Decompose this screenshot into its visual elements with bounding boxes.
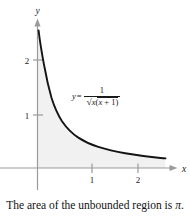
equation-annotation: y = 1 √x(x + 1): [72, 86, 120, 107]
x-axis-arrowhead: [170, 165, 178, 171]
equation-equals-sign: =: [77, 92, 82, 101]
radical-group: √x(x + 1): [86, 98, 119, 108]
denominator-plus-one: + 1: [102, 97, 115, 107]
radical-body: x(x + 1): [92, 97, 119, 107]
y-axis-arrowhead: [34, 19, 40, 27]
x-axis-label: x: [181, 164, 187, 174]
radical-overbar: [97, 97, 119, 98]
equation-fraction: 1 √x(x + 1): [84, 86, 121, 107]
figure-container: 1 2 1 2 y x y = 1 √x(x + 1) The area of …: [0, 0, 190, 224]
y-tick-label-2: 2: [25, 56, 30, 66]
equation-numerator: 1: [97, 86, 107, 96]
equation-denominator: √x(x + 1): [84, 97, 121, 108]
equation-lhs: y: [72, 92, 76, 101]
caption-period: .: [181, 199, 184, 211]
x-tick-label-2: 2: [136, 175, 141, 185]
denominator-close-paren: ): [116, 97, 119, 107]
figure-caption: The area of the unbounded region is π.: [0, 198, 190, 212]
x-tick-label-1: 1: [90, 175, 95, 185]
y-tick-label-1: 1: [25, 111, 30, 121]
caption-text: The area of the unbounded region is: [6, 199, 175, 211]
y-axis-label: y: [34, 6, 40, 16]
